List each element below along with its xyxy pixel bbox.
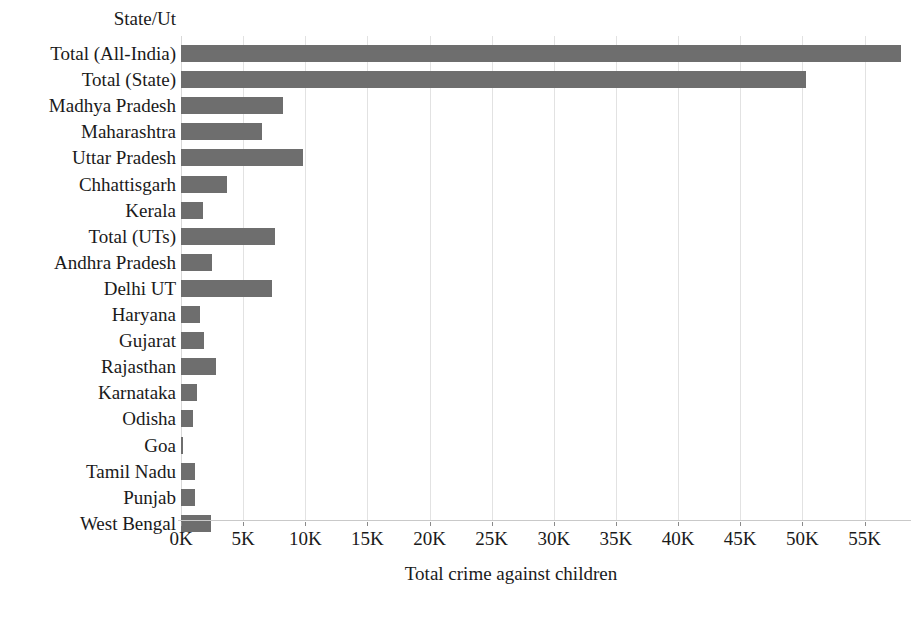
category-label: Andhra Pradesh bbox=[0, 253, 176, 273]
category-axis-header: State/Ut bbox=[0, 8, 176, 30]
gridline-20K bbox=[430, 36, 431, 520]
bar-fill bbox=[181, 358, 216, 375]
category-label: Maharashtra bbox=[0, 122, 176, 142]
bar-fill bbox=[181, 306, 200, 323]
category-label: Total (UTs) bbox=[0, 227, 176, 247]
category-label: Uttar Pradesh bbox=[0, 148, 176, 168]
category-axis: State/Ut Total (All-India)Total (State)M… bbox=[0, 0, 176, 530]
category-label: Goa bbox=[0, 436, 176, 456]
bar[interactable] bbox=[181, 306, 200, 323]
x-tick-mark bbox=[367, 522, 368, 526]
x-tick-label: 55K bbox=[835, 527, 895, 551]
x-tick-label: 10K bbox=[275, 527, 335, 551]
category-label: West Bengal bbox=[0, 514, 176, 534]
bar[interactable] bbox=[181, 45, 901, 62]
x-tick-mark bbox=[865, 522, 866, 526]
bar[interactable] bbox=[181, 97, 283, 114]
gridline-15K bbox=[367, 36, 368, 520]
x-tick-mark bbox=[243, 522, 244, 526]
x-tick-label: 25K bbox=[462, 527, 522, 551]
gridline-50K bbox=[802, 36, 803, 520]
category-label: Haryana bbox=[0, 305, 176, 325]
x-tick-mark bbox=[616, 522, 617, 526]
bar-fill bbox=[181, 437, 183, 454]
x-tick-mark bbox=[430, 522, 431, 526]
category-label: Odisha bbox=[0, 409, 176, 429]
x-axis-line bbox=[178, 520, 911, 521]
x-tick-label: 5K bbox=[213, 527, 273, 551]
gridline-30K bbox=[554, 36, 555, 520]
bar-fill bbox=[181, 45, 901, 62]
x-tick-mark bbox=[678, 522, 679, 526]
bar[interactable] bbox=[181, 202, 203, 219]
bar-fill bbox=[181, 97, 283, 114]
bar[interactable] bbox=[181, 254, 212, 271]
category-label: Tamil Nadu bbox=[0, 462, 176, 482]
bar[interactable] bbox=[181, 437, 183, 454]
bar[interactable] bbox=[181, 280, 272, 297]
bar[interactable] bbox=[181, 71, 806, 88]
bar-fill bbox=[181, 149, 303, 166]
x-tick-label: 35K bbox=[586, 527, 646, 551]
x-tick-mark bbox=[802, 522, 803, 526]
x-tick-label: 15K bbox=[337, 527, 397, 551]
gridline-35K bbox=[616, 36, 617, 520]
category-label: Total (State) bbox=[0, 70, 176, 90]
bar[interactable] bbox=[181, 489, 195, 506]
x-tick-label: 45K bbox=[710, 527, 770, 551]
x-tick-mark bbox=[492, 522, 493, 526]
category-label: Kerala bbox=[0, 201, 176, 221]
category-label: Gujarat bbox=[0, 331, 176, 351]
category-label: Delhi UT bbox=[0, 279, 176, 299]
x-tick-mark bbox=[181, 522, 182, 526]
bar[interactable] bbox=[181, 463, 195, 480]
x-tick-mark bbox=[740, 522, 741, 526]
plot-area bbox=[181, 36, 908, 520]
x-tick-label: 20K bbox=[400, 527, 460, 551]
bar[interactable] bbox=[181, 384, 197, 401]
x-tick-mark bbox=[305, 522, 306, 526]
category-label: Chhattisgarh bbox=[0, 175, 176, 195]
bar-fill bbox=[181, 71, 806, 88]
bar[interactable] bbox=[181, 228, 275, 245]
bar-fill bbox=[181, 384, 197, 401]
gridline-40K bbox=[678, 36, 679, 520]
bar-fill bbox=[181, 176, 227, 193]
category-label: Total (All-India) bbox=[0, 44, 176, 64]
gridline-45K bbox=[740, 36, 741, 520]
category-label: Karnataka bbox=[0, 383, 176, 403]
bar[interactable] bbox=[181, 358, 216, 375]
x-tick-mark bbox=[554, 522, 555, 526]
bar-fill bbox=[181, 254, 212, 271]
bar-fill bbox=[181, 280, 272, 297]
gridline-55K bbox=[865, 36, 866, 520]
bar-fill bbox=[181, 463, 195, 480]
bar-chart: State/Ut Total (All-India)Total (State)M… bbox=[0, 0, 922, 617]
bar[interactable] bbox=[181, 332, 204, 349]
x-axis-title: Total crime against children bbox=[0, 562, 922, 586]
bar-fill bbox=[181, 202, 203, 219]
x-tick-label: 40K bbox=[648, 527, 708, 551]
gridline-10K bbox=[305, 36, 306, 520]
bar[interactable] bbox=[181, 176, 227, 193]
x-tick-label: 0K bbox=[151, 527, 211, 551]
bar[interactable] bbox=[181, 149, 303, 166]
category-label: Punjab bbox=[0, 488, 176, 508]
category-label: Rajasthan bbox=[0, 357, 176, 377]
category-label: Madhya Pradesh bbox=[0, 96, 176, 116]
bar-fill bbox=[181, 489, 195, 506]
bar-fill bbox=[181, 410, 193, 427]
bar[interactable] bbox=[181, 123, 262, 140]
bar-fill bbox=[181, 228, 275, 245]
bar[interactable] bbox=[181, 410, 193, 427]
bar-fill bbox=[181, 332, 204, 349]
x-tick-label: 50K bbox=[772, 527, 832, 551]
x-tick-label: 30K bbox=[524, 527, 584, 551]
bar-fill bbox=[181, 123, 262, 140]
gridline-25K bbox=[492, 36, 493, 520]
